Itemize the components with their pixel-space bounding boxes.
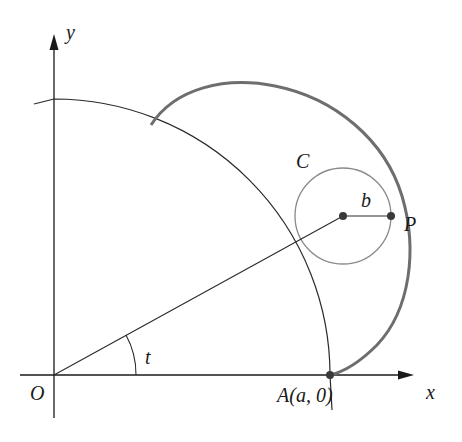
traced-curve	[151, 83, 410, 375]
x-axis-arrowhead	[398, 371, 414, 380]
point-p-dot	[387, 212, 395, 220]
origin-label: O	[30, 383, 44, 403]
angle-t-label: t	[145, 347, 151, 367]
diagram-canvas	[0, 0, 462, 442]
circle-c-label: C	[296, 151, 309, 171]
y-axis-arrowhead	[50, 34, 59, 50]
center-point	[339, 212, 347, 220]
quarter-circle-radius-a	[34, 99, 332, 410]
line-o-to-center	[54, 216, 343, 375]
figure-diagram: y x O A(a, 0) C b P t	[0, 0, 462, 442]
y-axis-label: y	[66, 22, 75, 42]
point-a-dot	[326, 371, 334, 379]
radius-b-label: b	[361, 190, 371, 210]
x-axis-label: x	[426, 382, 435, 402]
point-a-label: A(a, 0)	[277, 385, 333, 405]
point-p-label: P	[404, 214, 416, 234]
point-a-text: A(a, 0)	[277, 384, 333, 406]
angle-t-arc	[126, 335, 136, 375]
